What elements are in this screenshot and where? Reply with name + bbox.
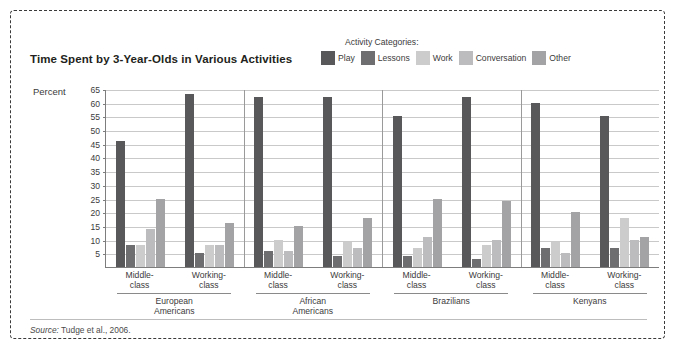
category-group-label: EuropeanAmericans bbox=[154, 296, 195, 316]
source-note: Source: Tudge et al., 2006. bbox=[30, 325, 131, 335]
legend-item[interactable]: Other bbox=[532, 51, 571, 65]
bar[interactable] bbox=[502, 201, 511, 267]
bar[interactable] bbox=[136, 245, 145, 267]
bar[interactable] bbox=[413, 248, 422, 267]
bar[interactable] bbox=[531, 103, 540, 267]
bar[interactable] bbox=[541, 248, 550, 267]
source-citation: Tudge et al., 2006. bbox=[59, 325, 131, 335]
bar[interactable] bbox=[551, 242, 560, 267]
legend-item[interactable]: Conversation bbox=[459, 51, 527, 65]
label-line-1: Working- bbox=[590, 270, 659, 280]
legend-swatch-icon bbox=[532, 51, 546, 65]
group-label-line-1: Brazilians bbox=[433, 296, 470, 306]
label-line-1: Middle- bbox=[105, 270, 174, 280]
bar[interactable] bbox=[363, 218, 372, 267]
bar[interactable] bbox=[640, 237, 649, 267]
y-axis-tick-label: 40 bbox=[90, 153, 100, 163]
label-line-2: class bbox=[382, 280, 451, 290]
legend-item[interactable]: Play bbox=[321, 51, 355, 65]
legend-item-label: Work bbox=[433, 53, 453, 63]
bar[interactable] bbox=[393, 116, 402, 267]
category-group: Middle-classWorking-classKenyans bbox=[521, 270, 660, 316]
category-subgroup-label: Middle-class bbox=[382, 270, 451, 290]
category-rule bbox=[256, 293, 370, 294]
legend-item-label: Other bbox=[549, 53, 571, 63]
label-line-1: Working- bbox=[313, 270, 382, 280]
bar[interactable] bbox=[333, 256, 342, 267]
bar-group-panel bbox=[382, 90, 521, 267]
page-title: Time Spent by 3-Year-Olds in Various Act… bbox=[30, 53, 292, 65]
legend-item[interactable]: Lessons bbox=[361, 51, 410, 65]
category-subgroup-label: Middle-class bbox=[105, 270, 174, 290]
category-subgroup-label: Working-class bbox=[590, 270, 659, 290]
y-axis-tick-label: 25 bbox=[90, 195, 100, 205]
bar[interactable] bbox=[561, 253, 570, 267]
bar[interactable] bbox=[433, 199, 442, 267]
category-group-label: AfricanAmericans bbox=[292, 296, 333, 316]
label-line-1: Working- bbox=[174, 270, 243, 280]
bar-subgroup bbox=[590, 90, 659, 267]
bar[interactable] bbox=[156, 199, 165, 267]
bar[interactable] bbox=[284, 251, 293, 267]
bar[interactable] bbox=[195, 253, 204, 267]
category-subgroup-label: Working-class bbox=[451, 270, 520, 290]
bar[interactable] bbox=[274, 240, 283, 267]
legend-item-label: Lessons bbox=[378, 53, 410, 63]
category-subgroup-labels: Middle-classWorking-class bbox=[521, 270, 660, 290]
y-axis-tick-label: 10 bbox=[90, 236, 100, 246]
label-line-1: Middle- bbox=[521, 270, 590, 280]
y-axis-tick-label: 55 bbox=[90, 112, 100, 122]
bar[interactable] bbox=[126, 245, 135, 267]
bar[interactable] bbox=[225, 223, 234, 267]
bar-subgroup bbox=[313, 90, 382, 267]
bar[interactable] bbox=[610, 248, 619, 267]
bar[interactable] bbox=[264, 251, 273, 267]
bar[interactable] bbox=[600, 116, 609, 267]
label-line-1: Middle- bbox=[382, 270, 451, 280]
bar[interactable] bbox=[462, 97, 471, 267]
legend-swatch-icon bbox=[321, 51, 335, 65]
bar-group-panel bbox=[521, 90, 660, 267]
bar[interactable] bbox=[630, 240, 639, 267]
bar-subgroup bbox=[383, 90, 452, 267]
bar[interactable] bbox=[215, 245, 224, 267]
bar[interactable] bbox=[294, 226, 303, 267]
bar[interactable] bbox=[323, 97, 332, 267]
group-label-line-2: Americans bbox=[154, 306, 195, 316]
bar[interactable] bbox=[403, 256, 412, 267]
bar[interactable] bbox=[205, 245, 214, 267]
category-subgroup-label: Working-class bbox=[313, 270, 382, 290]
category-subgroup-labels: Middle-classWorking-class bbox=[105, 270, 244, 290]
category-group: Middle-classWorking-classAfricanAmerican… bbox=[244, 270, 383, 316]
label-line-2: class bbox=[105, 280, 174, 290]
category-subgroup-label: Working-class bbox=[174, 270, 243, 290]
bar[interactable] bbox=[423, 237, 432, 267]
legend-swatch-icon bbox=[416, 51, 430, 65]
category-group: Middle-classWorking-classBrazilians bbox=[382, 270, 521, 316]
label-line-1: Middle- bbox=[244, 270, 313, 280]
category-rule bbox=[117, 293, 231, 294]
bar[interactable] bbox=[254, 97, 263, 267]
bar[interactable] bbox=[472, 259, 481, 267]
legend: Activity Categories: PlayLessonsWorkConv… bbox=[321, 37, 621, 65]
label-line-2: class bbox=[521, 280, 590, 290]
y-axis-tick-label: 30 bbox=[90, 181, 100, 191]
bar[interactable] bbox=[571, 212, 580, 267]
y-axis-tick-label: 20 bbox=[90, 208, 100, 218]
bar[interactable] bbox=[353, 248, 362, 267]
legend-swatch-icon bbox=[361, 51, 375, 65]
bar[interactable] bbox=[116, 141, 125, 267]
bar[interactable] bbox=[146, 229, 155, 267]
bar[interactable] bbox=[620, 218, 629, 267]
group-label-line-1: European bbox=[154, 296, 195, 306]
bar[interactable] bbox=[343, 242, 352, 267]
bar[interactable] bbox=[492, 240, 501, 267]
bar-subgroup bbox=[106, 90, 175, 267]
category-group: Middle-classWorking-classEuropeanAmerica… bbox=[105, 270, 244, 316]
legend-item[interactable]: Work bbox=[416, 51, 453, 65]
bar[interactable] bbox=[185, 94, 194, 267]
bar-subgroup bbox=[452, 90, 521, 267]
bar[interactable] bbox=[482, 245, 491, 267]
y-axis-tick-label: 60 bbox=[90, 99, 100, 109]
category-subgroup-labels: Middle-classWorking-class bbox=[382, 270, 521, 290]
